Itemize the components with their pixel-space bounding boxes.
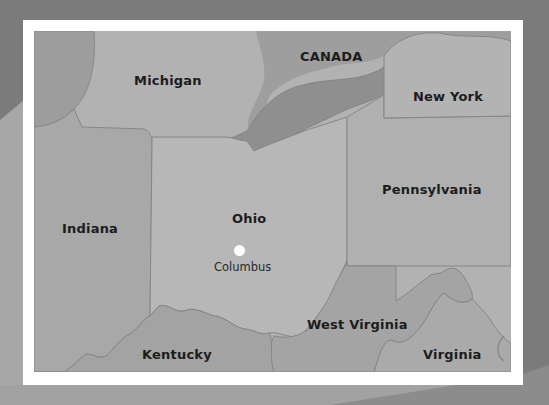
label-canada: CANADA: [300, 49, 363, 64]
map-shapes: [34, 31, 511, 372]
label-columbus: Columbus: [214, 260, 271, 274]
region-ohio-shape: [150, 117, 347, 337]
label-west-virginia: West Virginia: [307, 317, 408, 332]
label-kentucky: Kentucky: [142, 347, 212, 362]
label-new-york: New York: [413, 89, 483, 104]
city-marker-columbus: [234, 245, 245, 256]
label-indiana: Indiana: [62, 221, 118, 236]
label-virginia: Virginia: [423, 347, 482, 362]
label-pennsylvania: Pennsylvania: [382, 182, 482, 197]
region-pennsylvania-shape: [347, 95, 511, 266]
label-michigan: Michigan: [134, 73, 202, 88]
label-ohio: Ohio: [232, 211, 267, 226]
map-canvas: Michigan CANADA New York Pennsylvania In…: [34, 31, 511, 372]
region-new-york-shape: [384, 33, 511, 118]
